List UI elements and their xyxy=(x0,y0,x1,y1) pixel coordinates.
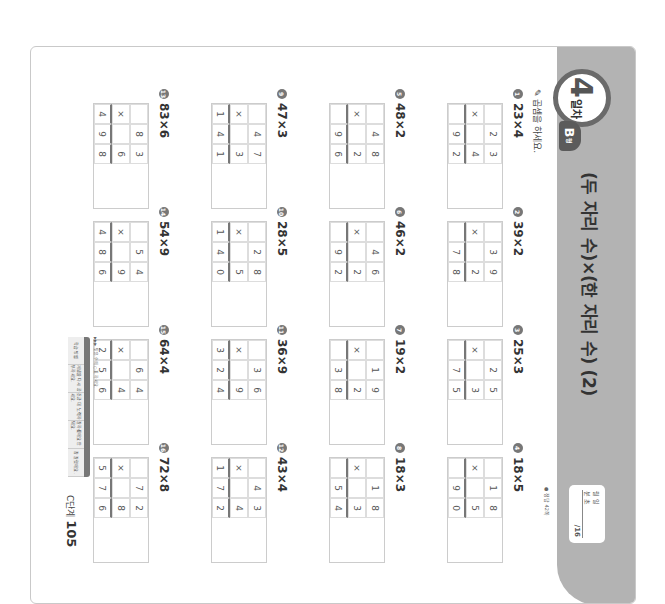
answer-cell[interactable] xyxy=(248,458,266,478)
answer-cell[interactable] xyxy=(330,340,348,360)
answer-cell[interactable]: × xyxy=(348,340,366,360)
answer-cell[interactable]: × xyxy=(466,458,484,478)
answer-cell[interactable]: 4 xyxy=(248,478,266,498)
answer-cell[interactable] xyxy=(248,104,266,124)
answer-cell[interactable]: × xyxy=(348,222,366,242)
answer-cell[interactable]: 9 xyxy=(230,380,248,400)
answer-cell[interactable] xyxy=(230,242,248,262)
answer-cell[interactable]: 7 xyxy=(248,144,266,164)
answer-cell[interactable] xyxy=(230,478,248,498)
answer-cell[interactable]: 3 xyxy=(466,380,484,400)
answer-cell[interactable]: 1 xyxy=(212,222,230,242)
answer-cell[interactable] xyxy=(230,360,248,380)
answer-cell[interactable] xyxy=(130,104,148,124)
answer-cell[interactable]: × xyxy=(112,458,130,478)
answer-cell[interactable]: 5 xyxy=(484,380,502,400)
answer-cell[interactable]: 3 xyxy=(130,144,148,164)
self-check-cell[interactable]: 잘하셨어요 안 돼요. xyxy=(68,421,84,449)
answer-cell[interactable] xyxy=(248,340,266,360)
answer-cell[interactable] xyxy=(466,242,484,262)
answer-cell[interactable] xyxy=(366,458,384,478)
answer-cell[interactable] xyxy=(484,222,502,242)
answer-cell[interactable]: 4 xyxy=(330,498,348,518)
answer-cell[interactable]: 2 xyxy=(212,498,230,518)
answer-cell[interactable]: 6 xyxy=(112,144,130,164)
answer-cell[interactable]: 9 xyxy=(448,478,466,498)
answer-cell[interactable]: 8 xyxy=(94,144,112,164)
answer-cell[interactable]: × xyxy=(230,104,248,124)
self-check-cell[interactable]: 참 잘했어요. xyxy=(68,449,84,477)
answer-cell[interactable]: 4 xyxy=(366,242,384,262)
answer-cell[interactable] xyxy=(112,124,130,144)
answer-cell[interactable]: × xyxy=(230,458,248,478)
answer-cell[interactable] xyxy=(448,222,466,242)
answer-cell[interactable]: 3 xyxy=(348,498,366,518)
answer-cell[interactable]: 2 xyxy=(466,262,484,282)
answer-cell[interactable] xyxy=(348,124,366,144)
answer-cell[interactable] xyxy=(112,360,130,380)
answer-cell[interactable]: 5 xyxy=(130,242,148,262)
answer-cell[interactable]: 7 xyxy=(130,478,148,498)
answer-cell[interactable] xyxy=(330,104,348,124)
answer-cell[interactable]: 5 xyxy=(330,478,348,498)
answer-cell[interactable] xyxy=(484,458,502,478)
answer-cell[interactable]: 2 xyxy=(484,124,502,144)
answer-cell[interactable]: × xyxy=(230,340,248,360)
answer-cell[interactable]: 2 xyxy=(248,242,266,262)
answer-cell[interactable]: 3 xyxy=(248,360,266,380)
answer-cell[interactable]: 7 xyxy=(448,242,466,262)
answer-cell[interactable]: 1 xyxy=(212,104,230,124)
answer-cell[interactable]: 1 xyxy=(484,478,502,498)
answer-cell[interactable]: 8 xyxy=(448,262,466,282)
answer-cell[interactable]: 5 xyxy=(466,498,484,518)
answer-cell[interactable] xyxy=(466,360,484,380)
answer-cell[interactable]: 0 xyxy=(212,262,230,282)
answer-cell[interactable]: 4 xyxy=(212,242,230,262)
answer-cell[interactable]: 8 xyxy=(94,242,112,262)
answer-cell[interactable]: 6 xyxy=(94,498,112,518)
answer-cell[interactable]: × xyxy=(466,104,484,124)
answer-cell[interactable]: 4 xyxy=(130,380,148,400)
answer-cell[interactable]: 2 xyxy=(212,360,230,380)
answer-cell[interactable]: 2 xyxy=(448,144,466,164)
answer-cell[interactable] xyxy=(448,458,466,478)
answer-cell[interactable] xyxy=(330,458,348,478)
answer-cell[interactable]: 2 xyxy=(130,498,148,518)
self-check-cell[interactable]: 학습 방법 xyxy=(68,337,84,365)
answer-cell[interactable]: × xyxy=(348,104,366,124)
self-check-cell[interactable]: 개념을 다시 공부하세요. xyxy=(68,365,84,393)
answer-cell[interactable]: 6 xyxy=(94,262,112,282)
answer-cell[interactable]: 1 xyxy=(366,478,384,498)
answer-cell[interactable]: 7 xyxy=(212,478,230,498)
answer-cell[interactable]: 4 xyxy=(466,144,484,164)
answer-cell[interactable]: 9 xyxy=(448,124,466,144)
answer-cell[interactable]: 8 xyxy=(112,498,130,518)
answer-cell[interactable]: 8 xyxy=(130,124,148,144)
answer-cell[interactable] xyxy=(348,478,366,498)
answer-cell[interactable]: 2 xyxy=(484,360,502,380)
answer-cell[interactable]: 8 xyxy=(484,498,502,518)
answer-cell[interactable]: 8 xyxy=(330,380,348,400)
answer-cell[interactable]: 9 xyxy=(484,262,502,282)
answer-cell[interactable]: 9 xyxy=(112,262,130,282)
answer-cell[interactable] xyxy=(484,340,502,360)
answer-cell[interactable] xyxy=(366,104,384,124)
answer-cell[interactable] xyxy=(130,458,148,478)
answer-cell[interactable]: × xyxy=(348,458,366,478)
answer-cell[interactable]: 9 xyxy=(366,380,384,400)
answer-cell[interactable]: 3 xyxy=(248,498,266,518)
answer-cell[interactable]: 8 xyxy=(366,144,384,164)
answer-cell[interactable]: 5 xyxy=(94,458,112,478)
answer-cell[interactable]: 4 xyxy=(94,222,112,242)
answer-cell[interactable]: 4 xyxy=(366,124,384,144)
answer-cell[interactable]: 9 xyxy=(330,124,348,144)
answer-cell[interactable]: 3 xyxy=(230,144,248,164)
answer-cell[interactable]: 2 xyxy=(348,262,366,282)
answer-cell[interactable]: 2 xyxy=(348,380,366,400)
answer-cell[interactable]: 4 xyxy=(130,262,148,282)
answer-cell[interactable]: 1 xyxy=(212,458,230,478)
answer-cell[interactable] xyxy=(230,124,248,144)
answer-cell[interactable]: 3 xyxy=(484,144,502,164)
answer-cell[interactable]: 0 xyxy=(448,498,466,518)
answer-cell[interactable]: × xyxy=(112,222,130,242)
